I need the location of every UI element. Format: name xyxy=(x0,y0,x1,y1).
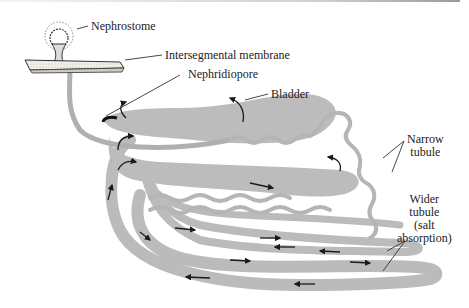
label-nephridiopore: Nephridiopore xyxy=(188,68,258,81)
label-narrow-tubule: Narrow tubule xyxy=(407,133,444,159)
label-bladder: Bladder xyxy=(271,88,309,101)
outer-wide-loop xyxy=(111,140,436,285)
label-narrow-tubule-line2: tubule xyxy=(407,146,444,159)
intersegmental-membrane-shape xyxy=(25,60,124,73)
nephrostome-funnel xyxy=(45,22,73,62)
nephridium-diagram xyxy=(0,0,469,308)
label-nephrostome: Nephrostome xyxy=(91,20,156,33)
label-wider-tubule-line4: absorption) xyxy=(397,232,452,245)
label-wider-tubule: Wider tubule (salt absorption) xyxy=(397,193,452,245)
label-intersegmental-membrane: Intersegmental membrane xyxy=(165,49,290,62)
